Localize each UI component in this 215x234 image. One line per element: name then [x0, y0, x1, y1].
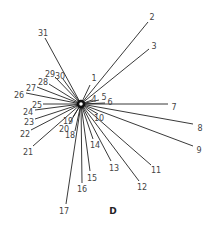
diagram-caption: D	[109, 206, 116, 216]
node-label-20: 20	[59, 125, 69, 134]
node-label-17: 17	[59, 207, 69, 216]
node-label-26: 26	[14, 91, 24, 100]
node-label-31: 31	[38, 29, 48, 38]
node-label-9: 9	[196, 146, 201, 155]
node-label-12: 12	[137, 183, 147, 192]
node-label-16: 16	[77, 185, 87, 194]
node-label-1: 1	[91, 74, 96, 83]
edge-2	[81, 22, 148, 104]
node-label-27: 27	[26, 84, 36, 93]
node-label-4: 4	[91, 95, 96, 104]
node-label-15: 15	[87, 174, 97, 183]
node-label-25: 25	[32, 101, 42, 110]
star-diagram: 1234567891011121314151617181920212223242…	[0, 0, 215, 234]
node-label-8: 8	[197, 124, 202, 133]
node-label-28: 28	[38, 78, 48, 87]
node-label-21: 21	[23, 148, 33, 157]
node-label-6: 6	[107, 98, 112, 107]
node-label-30: 30	[55, 72, 65, 81]
node-label-7: 7	[171, 103, 176, 112]
hub-node	[78, 101, 84, 107]
node-label-3: 3	[151, 42, 156, 51]
node-label-11: 11	[151, 166, 161, 175]
node-label-10: 10	[94, 114, 104, 123]
node-label-23: 23	[24, 118, 34, 127]
node-label-5: 5	[101, 93, 106, 102]
node-label-29: 29	[45, 70, 55, 79]
node-label-2: 2	[149, 13, 154, 22]
node-label-13: 13	[109, 164, 119, 173]
node-label-22: 22	[20, 130, 30, 139]
rays-group	[26, 22, 193, 204]
node-label-14: 14	[90, 141, 100, 150]
edge-16	[81, 104, 82, 183]
